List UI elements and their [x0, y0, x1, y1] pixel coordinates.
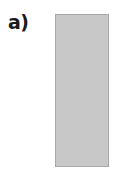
panel-label: a) — [8, 13, 29, 32]
gray-rectangle — [55, 14, 109, 167]
